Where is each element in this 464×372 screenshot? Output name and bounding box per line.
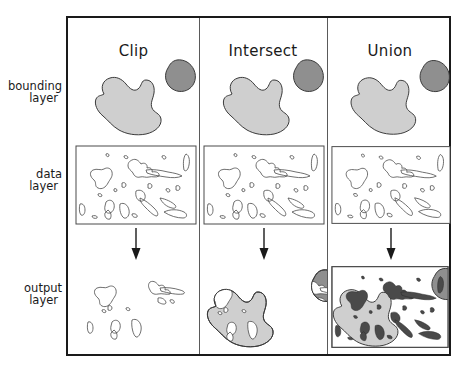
row-label-bounding-layer: bounding layer	[0, 80, 62, 104]
cell-clip-bounding-layer	[72, 56, 199, 146]
cell-union-bounding-layer	[328, 56, 453, 146]
cell-clip-arrow	[72, 226, 199, 264]
row-label-data-line2: layer	[0, 180, 62, 192]
cell-clip-output-layer	[72, 260, 199, 354]
cell-clip-data-layer	[72, 144, 199, 226]
cell-intersect-arrow	[200, 226, 327, 264]
cell-intersect-data-layer	[200, 144, 327, 226]
diagram-frame: Clip Intersect Union	[66, 16, 451, 356]
down-arrow-icon	[381, 226, 401, 262]
row-label-data-layer: data layer	[0, 168, 62, 192]
down-arrow-icon	[126, 226, 146, 262]
row-label-output-line2: layer	[0, 294, 62, 306]
cell-union-arrow	[328, 226, 453, 264]
row-label-output-layer: output layer	[0, 282, 62, 306]
cell-intersect-output-layer	[200, 260, 327, 354]
cell-union-output-layer	[328, 260, 453, 354]
cell-intersect-bounding-layer	[200, 56, 327, 146]
row-label-bounding-line2: layer	[0, 92, 62, 104]
down-arrow-icon	[254, 226, 274, 262]
cell-union-data-layer	[328, 144, 453, 226]
